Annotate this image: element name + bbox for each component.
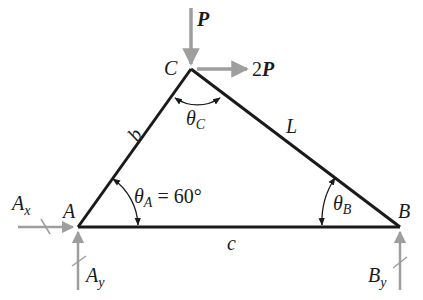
theta-c-label: θC [186, 107, 206, 132]
reaction-ax-label: Ax [10, 192, 31, 218]
load-2p-coef: 2 [252, 58, 262, 80]
side-l-label: L [285, 115, 297, 137]
reactions [18, 219, 407, 290]
labels: P 2P C A B b L c θA = 60° θB θC Ax Ay By [10, 8, 410, 290]
vertex-c-label: C [164, 57, 178, 79]
reaction-ay-label: Ay [84, 264, 105, 290]
theta-b-subscript: B [343, 202, 352, 217]
side-b-label: b [123, 124, 147, 145]
reaction-ax-subscript: x [23, 203, 31, 218]
theta-a-symbol: θ [134, 185, 144, 207]
theta-b-label: θB [333, 192, 352, 217]
theta-a-label: θA = 60° [134, 185, 202, 210]
reaction-by-main: B [368, 264, 380, 286]
theta-c-subscript: C [196, 117, 206, 132]
vertex-b-label: B [398, 200, 410, 222]
load-2p-var: P [261, 58, 275, 80]
reaction-ax-main: A [10, 192, 25, 214]
vertex-a-label: A [61, 200, 76, 222]
theta-b-symbol: θ [333, 192, 343, 214]
load-p-label: P [196, 8, 210, 30]
reaction-by-label: By [368, 264, 387, 290]
theta-c-arc-icon [175, 98, 220, 105]
side-c-label: c [227, 232, 236, 254]
reaction-ay-subscript: y [96, 275, 105, 290]
triangle-members [78, 69, 400, 227]
load-2p-label: 2P [252, 58, 275, 80]
reaction-by-subscript: y [378, 275, 387, 290]
member-L [191, 69, 400, 227]
reaction-ay-main: A [84, 264, 99, 286]
theta-c-symbol: θ [186, 107, 196, 129]
theta-a-subscript: A [143, 195, 153, 210]
free-body-diagram: P 2P C A B b L c θA = 60° θB θC Ax Ay By [0, 0, 423, 300]
theta-a-value: = 60° [152, 185, 201, 207]
